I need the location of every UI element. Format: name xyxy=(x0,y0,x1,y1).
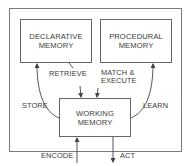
encode-label: ENCODE xyxy=(41,152,73,160)
learn-label: LEARN xyxy=(143,102,168,110)
retrieve-label: RETRIEVE xyxy=(49,70,87,78)
match-execute-label-2: EXECUTE xyxy=(101,77,137,85)
match-execute-arrow xyxy=(97,88,98,97)
connector-arrows xyxy=(0,0,190,166)
act-label: ACT xyxy=(120,152,135,160)
store-label: STORE xyxy=(22,102,48,110)
